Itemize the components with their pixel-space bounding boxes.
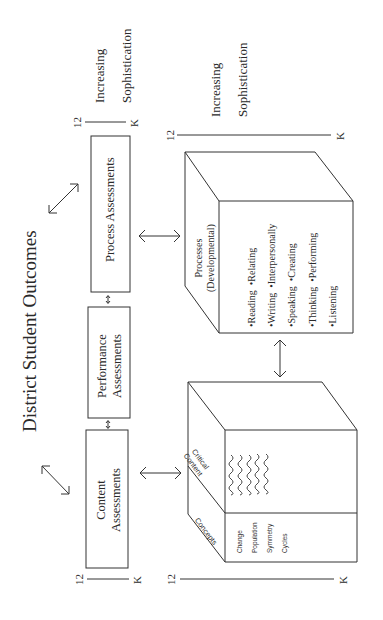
concept-symmetry: Symmetry <box>266 524 273 553</box>
scale-cube-label-2: Sophistication <box>235 43 251 117</box>
process-item-thinking: •Thinking <box>307 287 318 327</box>
double-arrow-icon <box>106 296 110 304</box>
process-title-line2: (Developmental) <box>205 224 217 292</box>
horizontal-double-arrow-icon <box>140 467 181 479</box>
process-item-speaking: •Speaking <box>286 286 297 327</box>
scale-left-start: 12 <box>73 574 85 585</box>
scale-cube-end: K <box>334 132 346 140</box>
performance-assessments-label: Performance Assessments <box>95 334 125 398</box>
content-line1: Content <box>94 468 109 532</box>
scale-left-end: K <box>131 576 143 584</box>
process-item-col: •Thinking •Performing <box>307 233 319 327</box>
process-item-relating: •Relating <box>246 248 257 285</box>
horizontal-double-arrow-icon <box>139 230 180 242</box>
process-assessments-label: Process Assessments <box>103 157 118 262</box>
process-cube-title: Processes (Developmental) <box>193 224 217 292</box>
process-item-performing: •Performing <box>307 233 318 282</box>
scale-top-label-2: Sophistication <box>119 29 135 103</box>
diagram-lines <box>0 0 383 620</box>
wavy-lines-icon <box>229 454 268 495</box>
diagonal-double-arrow-icon <box>42 466 69 494</box>
diagonal-double-arrow-icon <box>49 184 78 213</box>
concept-change: Change <box>236 530 243 553</box>
process-item-creating: •Creating <box>286 243 297 281</box>
performance-line1: Performance <box>95 334 110 398</box>
process-item-writing: •Writing <box>266 293 277 327</box>
performance-line2: Assessments <box>110 334 125 398</box>
process-title-line1: Processes <box>193 224 205 292</box>
process-item-col: •Reading •Relating <box>246 248 258 327</box>
scale-top-start: 12 <box>71 117 83 128</box>
double-arrow-icon <box>106 421 110 429</box>
process-item-interpersonally: •Interpersonally <box>266 224 277 288</box>
process-item-col: •Speaking •Creating <box>286 243 298 327</box>
process-item-col: •Listening <box>327 286 339 327</box>
vertical-double-arrow-icon <box>274 340 286 377</box>
scale-bottom-end: K <box>337 576 349 584</box>
concept-cycles: Cycles <box>281 533 288 553</box>
content-assessments-label: Content Assessments <box>94 468 124 532</box>
content-line2: Assessments <box>109 468 124 532</box>
concept-population: Population <box>251 522 258 553</box>
diagram-title: District Student Outcomes <box>19 230 41 432</box>
scale-top-end: K <box>128 119 140 127</box>
scale-bottom-start: 12 <box>165 574 177 585</box>
scale-cube-start: 12 <box>164 130 176 141</box>
process-item-reading: •Reading <box>246 290 257 327</box>
scale-cube-label-1: Increasing <box>208 63 224 117</box>
scale-top-label-1: Increasing <box>92 49 108 103</box>
process-item-listening: •Listening <box>327 286 338 327</box>
process-item-col: •Writing •Interpersonally <box>266 224 278 327</box>
